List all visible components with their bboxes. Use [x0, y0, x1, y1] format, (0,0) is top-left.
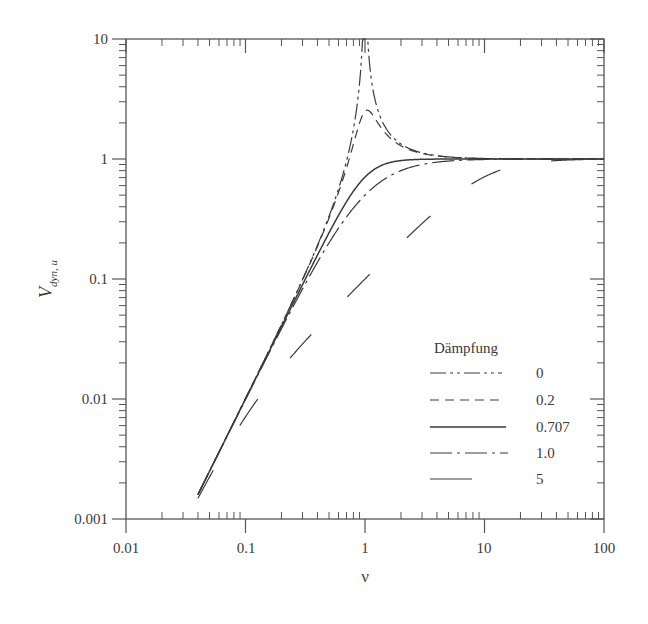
legend-label: 0: [536, 365, 544, 381]
legend: Dämpfung 0 0.2 0.707 1.0 5: [430, 340, 570, 487]
curve-damping-0_2: [198, 110, 604, 494]
legend-lines: [430, 373, 508, 479]
y-tick-label: 10: [93, 31, 108, 47]
x-tick-label: 0.01: [113, 540, 139, 556]
x-axis-label: ν: [361, 567, 369, 586]
svg-text:Vdyn, u: Vdyn, u: [36, 260, 59, 298]
y-tick-label: 1: [101, 151, 109, 167]
legend-label: 1.0: [536, 445, 555, 461]
y-tick-label: 0.1: [89, 271, 108, 287]
chart: 0.01 0.1 1 10 100 0.001 0.01 0.1 1 10 ν …: [0, 0, 648, 624]
legend-label: 5: [536, 471, 544, 487]
y-tick-label: 0.01: [82, 391, 108, 407]
legend-label: 0.707: [536, 419, 570, 435]
y-tick-label: 0.001: [74, 511, 108, 527]
y-axis-label: Vdyn, u: [36, 260, 59, 298]
legend-title: Dämpfung: [434, 340, 499, 356]
y-axis-label-subscript: dyn, u: [47, 260, 59, 287]
x-tick-label: 10: [477, 540, 492, 556]
x-tick-label: 100: [593, 540, 616, 556]
x-tick-label: 0.1: [237, 540, 256, 556]
legend-label: 0.2: [536, 392, 555, 408]
x-tick-label: 1: [361, 540, 369, 556]
